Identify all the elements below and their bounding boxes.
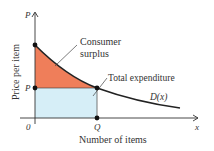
x-axis-symbol: x xyxy=(194,122,199,132)
demand-curve-diagram: P Price per item Consumer surplus Total … xyxy=(0,0,214,151)
price-tick-label: P xyxy=(24,83,31,93)
y-axis-label: Price per item xyxy=(10,44,21,100)
quantity-point xyxy=(95,116,100,121)
price-intercept-point xyxy=(33,43,38,48)
origin-label: 0 xyxy=(26,122,31,132)
equilibrium-point xyxy=(95,86,100,91)
quantity-tick-label: Q xyxy=(94,122,101,132)
consumer-surplus-leader xyxy=(55,45,77,66)
price-point xyxy=(33,86,38,91)
consumer-surplus-label-line2: surplus xyxy=(80,48,109,59)
demand-curve-label: D(x) xyxy=(149,92,167,103)
y-axis-symbol: P xyxy=(24,10,31,20)
total-expenditure-region xyxy=(35,88,97,118)
x-axis-label: Number of items xyxy=(79,134,147,145)
consumer-surplus-label-line1: Consumer xyxy=(80,36,122,47)
total-expenditure-label: Total expenditure xyxy=(108,73,175,83)
